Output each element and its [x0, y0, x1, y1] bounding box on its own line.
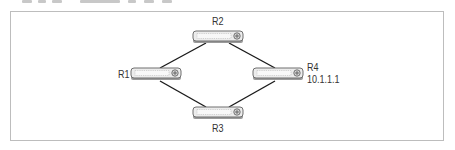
link-r4-r3 — [229, 81, 275, 107]
link-r2-r1 — [160, 43, 206, 68]
router-r3 — [192, 106, 244, 119]
link-r1-r3 — [160, 81, 206, 107]
router-r4 — [252, 67, 304, 80]
router-icon — [192, 30, 244, 44]
router-icon — [192, 106, 244, 120]
router-r2 — [192, 30, 244, 43]
link-r2-r4 — [229, 43, 275, 68]
router-label-r4: R4 — [307, 61, 319, 73]
router-label-r3: R3 — [212, 122, 224, 134]
network-links — [0, 0, 455, 150]
router-r1 — [130, 67, 182, 80]
router-address-r4: 10.1.1.1 — [307, 73, 340, 85]
router-label-r1: R1 — [118, 68, 130, 80]
router-icon — [252, 67, 304, 81]
router-icon — [130, 67, 182, 81]
router-label-r2: R2 — [212, 15, 224, 27]
